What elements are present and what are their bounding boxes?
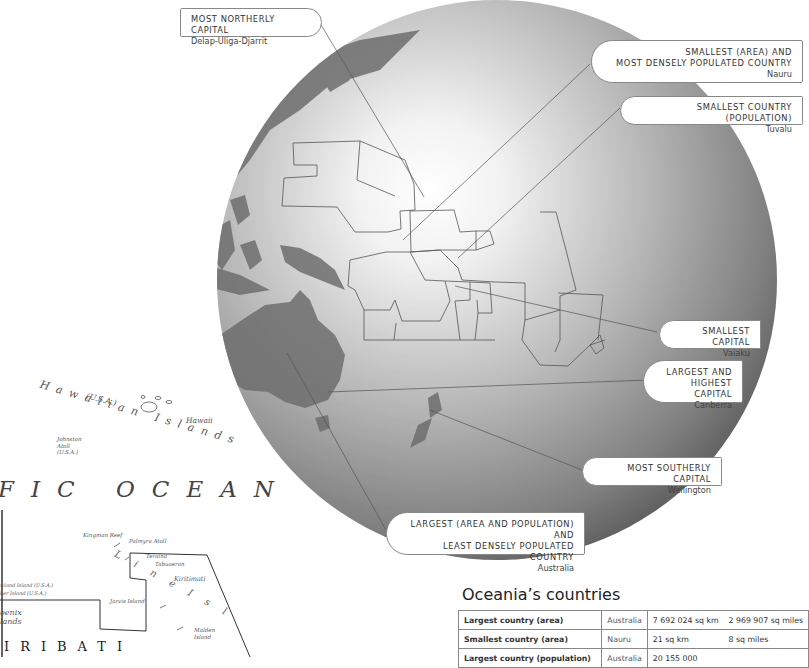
- callout-sub: Canberra: [654, 400, 732, 411]
- row-country: Nauru: [602, 630, 648, 649]
- label-baker-island: ker Island (U.S.A.): [0, 590, 46, 596]
- table-title: Oceania’s countries: [462, 585, 620, 604]
- callout-title-line2: most densely populated country: [602, 58, 792, 69]
- label-kiribati: IRIBATI: [4, 639, 133, 654]
- table-row: Smallest country (area) Nauru 21 sq km 8…: [459, 630, 809, 649]
- table-row: Largest country (area) Australia 7 692 0…: [459, 611, 809, 630]
- row-value-km: 20 155 000: [647, 649, 723, 668]
- callout-title: Smallest capital: [670, 326, 750, 348]
- label-kingman-reef: Kingman Reef: [83, 532, 122, 538]
- callout-most-northerly: Most Northerly Capital Delap-Uliga-Djarr…: [180, 8, 322, 37]
- callout-title-line2: highest capital: [654, 378, 732, 400]
- label-malden-line2: Island: [194, 634, 215, 641]
- callout-title-line1: Largest (area and population) and: [397, 519, 574, 541]
- callout-smallest-capital: Smallest capital Vaiaku: [659, 320, 761, 349]
- facts-table: Largest country (area) Australia 7 692 0…: [458, 610, 809, 668]
- callout-smallest-population: Smallest country (population) Tuvalu: [620, 96, 803, 125]
- row-label: Smallest country (area): [459, 630, 602, 649]
- row-label: Largest country (population): [459, 649, 602, 668]
- callout-largest-country: Largest (area and population) and least …: [386, 512, 585, 555]
- label-howland-island: wland Island (U.S.A.): [0, 582, 53, 588]
- callout-most-southerly: Most southerly capital Wellington: [582, 457, 722, 486]
- callout-title: Most southerly capital: [593, 463, 711, 485]
- callout-sub: Delap-Uliga-Djarrit: [191, 36, 311, 47]
- callout-title: Smallest country (population): [631, 102, 792, 124]
- label-malden-line1: Malden: [194, 627, 215, 634]
- label-johnston: Johnston Atoll (U.S.A.): [57, 436, 82, 456]
- row-country: Australia: [602, 611, 648, 630]
- label-tabuaeran: Tabuaeran: [155, 561, 185, 567]
- row-country: Australia: [602, 649, 648, 668]
- callout-title-line1: Largest and: [654, 367, 732, 378]
- row-value-mi: 2 969 907 sq miles: [724, 611, 809, 630]
- callout-title-line2: least densely populated country: [397, 541, 574, 563]
- label-palmyra-atoll: Palmyra Atoll: [129, 538, 166, 544]
- label-johnston-line1: Johnston: [57, 436, 82, 443]
- callout-sub: Tuvalu: [631, 124, 792, 135]
- row-value-mi: 8 sq miles: [724, 630, 809, 649]
- label-johnston-line3: (U.S.A.): [57, 449, 82, 456]
- callout-sub: Nauru: [602, 69, 792, 80]
- label-teraina: Teraina: [146, 553, 167, 559]
- label-jarvis-island: Jarvis Island: [110, 598, 145, 604]
- row-value-km: 7 692 024 sq km: [647, 611, 723, 630]
- callout-smallest-area: Smallest (area) and most densely populat…: [591, 40, 803, 83]
- callout-title: Most Northerly Capital: [191, 14, 311, 36]
- row-label: Largest country (area): [459, 611, 602, 630]
- table-row: Largest country (population) Australia 2…: [459, 649, 809, 668]
- label-phoenix-line2: lands: [0, 617, 22, 626]
- label-hawaii: Hawaii: [186, 416, 213, 425]
- row-value-km: 21 sq km: [647, 630, 723, 649]
- callout-sub: Wellington: [593, 485, 711, 496]
- callout-title-line1: Smallest (area) and: [602, 47, 792, 58]
- label-malden-island: Malden Island: [194, 627, 215, 640]
- callout-sub: Vaiaku: [670, 348, 750, 359]
- callout-sub: Australia: [397, 563, 574, 574]
- row-value-mi: [724, 649, 809, 668]
- label-phoenix-line1: oenix: [0, 608, 22, 617]
- label-pacific-ocean: FIC OCEAN: [0, 476, 291, 502]
- label-phoenix-islands: oenix lands: [0, 608, 22, 626]
- callout-largest-capital: Largest and highest capital Canberra: [643, 360, 743, 403]
